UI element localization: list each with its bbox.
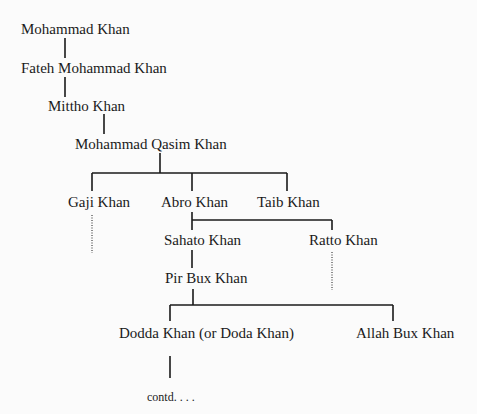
- continued-label: contd. . . .: [147, 388, 195, 406]
- node-fateh-mohammad-khan: Fateh Mohammad Khan: [21, 59, 167, 77]
- node-mohammad-khan: Mohammad Khan: [21, 20, 130, 38]
- node-allah-bux-khan: Allah Bux Khan: [356, 324, 454, 342]
- node-pir-bux-khan: Pir Bux Khan: [165, 269, 248, 287]
- node-sahato-khan: Sahato Khan: [164, 231, 241, 249]
- node-mohammad-qasim-khan: Mohammad Qasim Khan: [75, 135, 227, 153]
- node-mittho-khan: Mittho Khan: [48, 97, 125, 115]
- node-ratto-khan: Ratto Khan: [309, 231, 378, 249]
- node-gaji-khan: Gaji Khan: [68, 193, 130, 211]
- node-abro-khan: Abro Khan: [161, 193, 228, 211]
- node-dodda-khan: Dodda Khan (or Doda Khan): [119, 324, 294, 342]
- node-taib-khan: Taib Khan: [257, 193, 320, 211]
